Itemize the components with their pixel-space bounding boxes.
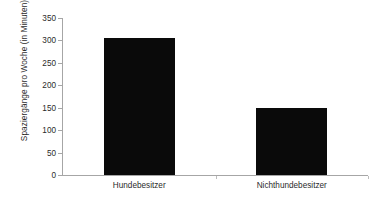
y-axis-tick-label: 200 [26, 81, 56, 90]
x-axis-tick-label: Hundebesitzer [113, 181, 166, 190]
bar [104, 38, 175, 175]
y-axis-tick-label: 150 [26, 103, 56, 112]
y-axis-tick-label: 350 [26, 14, 56, 23]
x-axis-tick-label: Nichthundebesitzer [257, 181, 327, 190]
y-axis-tick-label: 250 [26, 58, 56, 67]
x-axis-tick-mark [216, 176, 217, 179]
plot-area [63, 18, 368, 175]
y-axis-tick-label: 0 [26, 171, 56, 180]
y-axis-tick-labels: 050100150200250300350 [26, 0, 56, 203]
bar [256, 108, 327, 175]
x-axis-tick-mark [368, 176, 369, 179]
y-axis-tick-label: 100 [26, 126, 56, 135]
bar-chart: Spaziergänge pro Woche (in Minuten) 0501… [0, 0, 382, 203]
y-axis-tick-label: 50 [26, 148, 56, 157]
y-axis-tick-label: 300 [26, 36, 56, 45]
